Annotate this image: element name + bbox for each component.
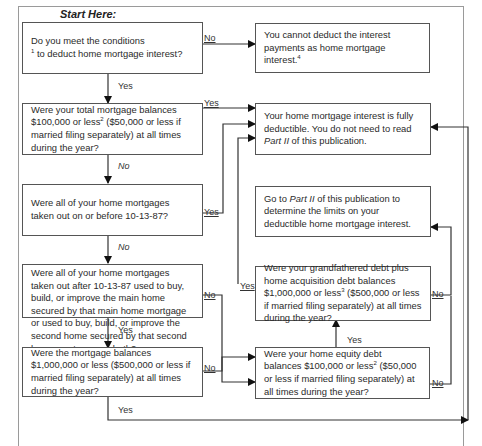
box-text: You cannot deduct the interest payments …	[264, 29, 390, 65]
box-1m-balance-question: Were the mortgage balances $1,000,000 or…	[22, 347, 203, 397]
label-q4-no: No	[204, 290, 216, 300]
label-q5-no: No	[432, 289, 444, 299]
box-text: Were all of your home mortgages taken ou…	[31, 267, 194, 355]
label-q6-yes: Yes	[118, 405, 133, 415]
box-grandfathered-debt-question: Were your grandfathered debt plus home a…	[255, 266, 431, 321]
label-q1-yes: Yes	[118, 81, 133, 91]
label-q1-no: No	[204, 33, 216, 43]
box-go-to-part-ii: Go to Part II of this publication to det…	[255, 186, 431, 237]
box-cannot-deduct: You cannot deduct the interest payments …	[255, 23, 430, 73]
box-text: Do you meet the conditions	[31, 35, 182, 48]
box-fully-deductible: Your home mortgage interest is fully ded…	[255, 103, 431, 155]
box-text: Were your home equity debt balances $100…	[264, 348, 382, 372]
label-q4-yes: Yes	[118, 325, 133, 335]
label-q6-no: No	[204, 363, 216, 373]
box-home-equity-question: Were your home equity debt balances $100…	[255, 347, 430, 399]
box-text: Were the mortgage balances $1,000,000 or…	[31, 347, 194, 397]
box-text: of this publication.	[289, 135, 367, 146]
part-reference: Part II	[290, 193, 315, 204]
label-q3-no: No	[118, 242, 130, 252]
label-q2-no: No	[118, 161, 130, 171]
box-before-1987-question: Were all of your home mortgages taken ou…	[22, 184, 203, 236]
box-text: Go to	[264, 193, 290, 204]
box-after-1987-use-question: Were all of your home mortgages taken ou…	[22, 264, 203, 318]
box-text: Were all of your home mortgages taken ou…	[31, 197, 194, 222]
label-q7-yes: Yes	[347, 335, 362, 345]
label-q3-yes: Yes	[204, 207, 219, 217]
label-q2-yes: Yes	[204, 98, 219, 108]
box-text: to deduct home mortgage interest?	[34, 48, 182, 59]
label-q7-no: No	[432, 378, 444, 388]
box-conditions-question: Do you meet the conditions1 to deduct ho…	[22, 22, 203, 74]
part-reference: Part II	[264, 135, 289, 146]
footnote-mark: 4	[297, 54, 300, 60]
label-q5-yes-in: Yes	[240, 281, 255, 291]
box-100k-question: Were your total mortgage balances $100,0…	[22, 103, 203, 155]
box-text: Your home mortgage interest is fully ded…	[264, 110, 413, 134]
